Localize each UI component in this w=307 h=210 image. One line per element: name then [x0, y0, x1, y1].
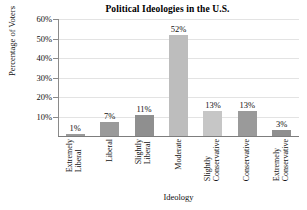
y-axis-line — [58, 19, 59, 137]
y-tick-label: 40% — [12, 53, 52, 63]
bar[interactable] — [203, 111, 222, 136]
x-tick-label: Conservative — [237, 139, 257, 187]
x-tick-label: ExtremelyLiberal — [65, 139, 85, 187]
bar-value-label: 11% — [124, 104, 164, 114]
y-tick-mark — [53, 78, 58, 79]
gridline — [58, 19, 299, 20]
x-tick-label: SlightlyLiberal — [134, 139, 154, 187]
plot-area: 1%7%11%52%13%13%3% — [58, 19, 299, 136]
x-tick-label: ExtremelyConservative — [272, 139, 292, 187]
y-tick-label: 60% — [12, 14, 52, 24]
chart-figure: Political Ideologies in the U.S. Percent… — [0, 0, 307, 210]
x-tick-label: SlightlyConservative — [203, 139, 223, 187]
y-tick-mark — [53, 19, 58, 20]
bar-value-label: 1% — [55, 123, 95, 133]
y-tick-label: 10% — [12, 112, 52, 122]
y-tick-mark — [53, 97, 58, 98]
y-tick-mark — [53, 58, 58, 59]
bar-value-label: 13% — [227, 100, 267, 110]
bar-value-label: 52% — [159, 24, 199, 34]
bar[interactable] — [135, 115, 154, 136]
bar[interactable] — [100, 122, 119, 136]
y-tick-label: 50% — [12, 34, 52, 44]
x-tick-label: Moderate — [169, 139, 189, 187]
bar[interactable] — [169, 35, 188, 136]
bar[interactable] — [238, 111, 257, 136]
x-tick-label: Liberal — [100, 139, 120, 187]
y-tick-label: 30% — [12, 73, 52, 83]
x-axis-label: Ideology — [58, 192, 299, 202]
y-tick-mark — [53, 117, 58, 118]
x-axis-line — [58, 136, 299, 137]
chart-title: Political Ideologies in the U.S. — [40, 4, 295, 14]
bar-value-label: 3% — [262, 119, 302, 129]
y-tick-mark — [53, 39, 58, 40]
y-tick-label: 20% — [12, 92, 52, 102]
